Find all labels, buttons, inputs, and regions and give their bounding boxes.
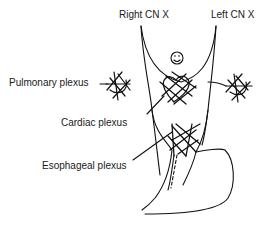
esophageal-plexus-label: Esophageal plexus: [42, 161, 127, 171]
vagus-nerve-plexus-diagram: Right CN X Left CN X Pulmonary plexus Ca…: [0, 0, 266, 228]
esophagus-left-wall: [142, 110, 172, 210]
pulmonary-plexus-label: Pulmonary plexus: [9, 78, 88, 88]
esophageal-leader-line: [133, 132, 172, 160]
trachea-outline: [141, 26, 216, 82]
left-cn-x-label: Left CN X: [211, 10, 254, 20]
pulmonary-plexus-left: [226, 74, 252, 102]
smiley-face-icon: [171, 52, 183, 64]
esophageal-plexus: [168, 124, 200, 156]
left-vagus-nerve: [202, 26, 216, 145]
right-cn-x-label: Right CN X: [119, 10, 169, 20]
cardiac-plexus: [160, 72, 196, 104]
diagram-artwork: [0, 0, 266, 228]
cardiac-plexus-label: Cardiac plexus: [61, 118, 127, 128]
cardiac-leader-line: [147, 96, 164, 114]
pulmonary-plexus-right: [106, 72, 130, 100]
